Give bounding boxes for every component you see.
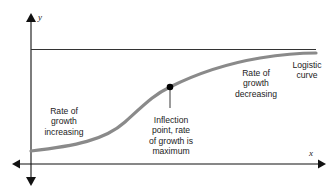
- y-axis-down-arrow-icon: [26, 177, 36, 186]
- growth-decreasing-label: Rate of growth decreasing: [228, 68, 284, 99]
- x-axis-label: x: [309, 148, 313, 158]
- y-axis-label: y: [38, 12, 42, 22]
- inflection-point: [167, 84, 174, 91]
- x-axis-left-arrow-icon: [12, 160, 20, 169]
- inflection-point-label: Inflection point, rate of growth is maxi…: [140, 115, 202, 157]
- y-axis-up-arrow-icon: [26, 13, 36, 22]
- x-axis-right-arrow-icon: [318, 160, 326, 169]
- curve-name-label: Logistic curve: [285, 60, 329, 81]
- growth-increasing-label: Rate of growth increasing: [36, 106, 92, 137]
